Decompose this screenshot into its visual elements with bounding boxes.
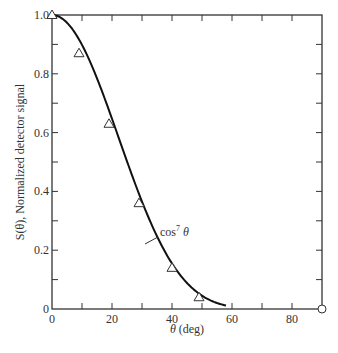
x-tick-label: 20 <box>106 312 118 326</box>
tick-labels: 02040608000.20.40.60.81.0 <box>34 8 298 326</box>
y-tick-label: 0 <box>43 302 49 316</box>
chart: 02040608000.20.40.60.81.0 cos7 θ θ (deg)… <box>0 0 338 353</box>
y-tick-label: 0.6 <box>34 126 49 140</box>
y-axis-label: S(θ), Normalized detector signal <box>13 83 27 240</box>
x-tick-label: 80 <box>286 312 298 326</box>
plot-frame <box>52 15 322 309</box>
x-axis-label: θ (deg) <box>170 322 204 336</box>
axis-ticks <box>52 15 322 309</box>
y-tick-label: 0.2 <box>34 243 49 257</box>
annotation-cos7: cos7 θ <box>160 224 189 239</box>
cos7-curve <box>52 15 226 306</box>
y-tick-label: 1.0 <box>34 8 49 22</box>
x-tick-label: 60 <box>226 312 238 326</box>
x-tick-label: 0 <box>49 312 55 326</box>
data-markers <box>47 10 326 313</box>
circle-marker <box>318 305 326 313</box>
triangle-marker <box>74 48 84 57</box>
annotation-leader <box>145 237 158 244</box>
y-tick-label: 0.4 <box>34 184 49 198</box>
y-tick-label: 0.8 <box>34 67 49 81</box>
